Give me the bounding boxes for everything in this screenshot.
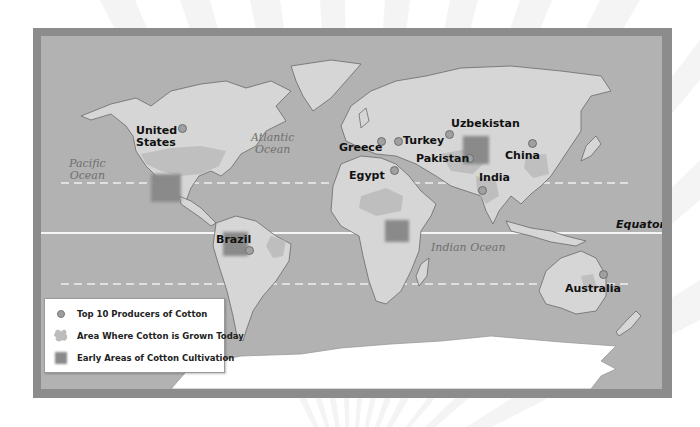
greenland-land [291,60,361,111]
label-china: China [505,150,540,162]
pacific-ocean-label: Pacific Ocean [69,158,106,182]
early-area-africa [385,220,409,242]
label-turkey: Turkey [403,135,444,147]
producer-dot-china[interactable] [528,139,537,148]
label-egypt: Egypt [349,170,385,182]
label-pakistan: Pakistan [416,153,469,165]
pacific-line2: Ocean [69,170,106,182]
label-uzbekistan: Uzbekistan [451,118,520,130]
legend-label-producers: Top 10 Producers of Cotton [77,309,207,319]
legend-item-producers: Top 10 Producers of Cotton [53,305,207,323]
legend-item-cotton-area: Area Where Cotton is Grown Today [53,327,244,345]
legend-symbol-cotton-area [53,328,69,344]
label-india: India [479,172,510,184]
legend-symbol-early-area [53,350,69,366]
atlantic-ocean-label: Atlantic Ocean [251,132,294,156]
map-legend: Top 10 Producers of Cotton Area Where Co… [44,298,225,373]
atlantic-line2: Ocean [251,144,294,156]
producer-dot-united-states[interactable] [178,124,187,133]
early-area-mexico [151,174,181,202]
producer-dot-turkey[interactable] [394,137,403,146]
blob-icon [53,328,69,344]
new-zealand-land [616,311,641,336]
legend-label-early-areas: Early Areas of Cotton Cultivation [77,353,234,363]
legend-symbol-producer-dot [53,306,69,322]
producer-dot-india[interactable] [478,186,487,195]
producer-dot-uzbekistan[interactable] [445,130,454,139]
legend-label-cotton-area: Area Where Cotton is Grown Today [77,331,244,341]
label-greece: Greece [339,142,382,154]
square-icon [55,352,67,364]
world-map: Pacific Ocean Atlantic Ocean Indian Ocea… [41,36,662,389]
legend-item-early-areas: Early Areas of Cotton Cultivation [53,349,234,367]
label-united-states: United States [136,125,177,149]
central-america-land [179,196,216,226]
label-brazil: Brazil [216,234,251,246]
producer-dot-australia[interactable] [599,270,608,279]
producer-dot-brazil[interactable] [245,246,254,255]
producer-dot-egypt[interactable] [390,166,399,175]
map-frame: Pacific Ocean Atlantic Ocean Indian Ocea… [33,28,672,398]
label-united-states-line2: States [136,137,177,149]
label-australia: Australia [565,283,621,295]
japan-land [581,136,601,161]
madagascar-land [416,258,429,286]
circle-icon [57,310,65,318]
equator-label: Equator [616,218,662,231]
indian-ocean-label: Indian Ocean [431,242,505,254]
